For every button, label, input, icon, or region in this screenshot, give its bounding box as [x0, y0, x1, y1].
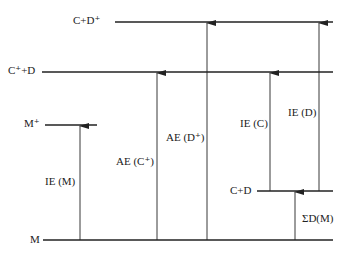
label-c-d: C+D — [230, 185, 251, 196]
label-ie-m: IE (M) — [45, 176, 75, 187]
label-sum-d: ΣD(M) — [302, 213, 333, 224]
label-m: M — [30, 234, 40, 245]
label-m-plus: M⁺ — [24, 118, 40, 129]
energy-diagram — [0, 0, 345, 256]
label-ie-c: IE (C) — [240, 118, 268, 129]
label-ae-d: AE (D⁺) — [166, 132, 205, 143]
label-cd-plus: C+D⁺ — [73, 15, 100, 26]
label-ie-d: IE (D) — [288, 107, 316, 118]
label-ae-c: AE (C⁺) — [116, 156, 154, 167]
label-c-plus-d: C⁺+D — [8, 65, 35, 76]
